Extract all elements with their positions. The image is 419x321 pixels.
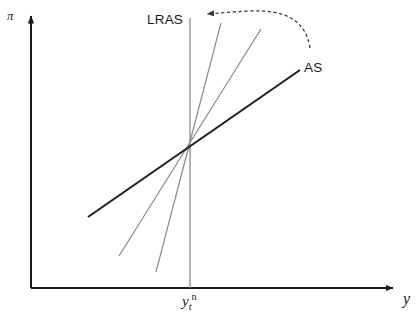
lras-curve-label: LRAS <box>147 13 183 27</box>
yn-superscript: n <box>192 291 197 302</box>
as-lras-diagram: LRAS AS π y ytn <box>0 0 419 321</box>
as-line <box>88 70 300 217</box>
as-curve-label: AS <box>304 61 322 75</box>
natural-output-tick-label: ytn <box>182 292 197 312</box>
yn-base: y <box>182 293 189 309</box>
x-axis-label-output: y <box>403 291 410 307</box>
yn-subscript: t <box>189 301 192 312</box>
rotation-arrow-icon <box>207 11 310 48</box>
y-axis-label-inflation: π <box>7 9 14 22</box>
diagram-canvas <box>0 0 419 321</box>
